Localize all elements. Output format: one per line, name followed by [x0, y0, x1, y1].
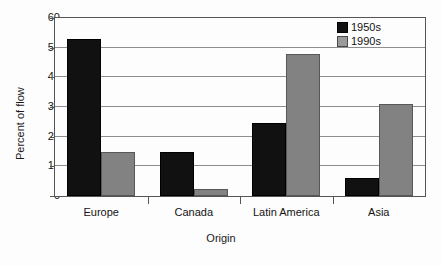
bar-chart: Percent of flow 0102030405060 EuropeCana… — [0, 0, 442, 266]
x-category-label: Latin America — [240, 206, 333, 218]
x-separator-tick — [333, 197, 334, 204]
legend-item-label: 1990s — [351, 35, 381, 47]
x-separator-tick — [240, 197, 241, 204]
x-separator-tick — [148, 197, 149, 204]
legend-item-label: 1950s — [351, 21, 381, 33]
bar — [101, 152, 135, 197]
x-category-label: Europe — [55, 206, 148, 218]
chart-legend: 1950s 1990s — [337, 20, 399, 48]
bar — [194, 189, 228, 196]
x-category-label: Canada — [148, 206, 241, 218]
x-category-label: Asia — [333, 206, 426, 218]
bar — [160, 152, 194, 197]
bar — [286, 54, 320, 196]
bar — [345, 178, 379, 196]
x-axis-title: Origin — [0, 232, 442, 244]
legend-swatch-icon — [337, 22, 348, 33]
bar — [67, 39, 101, 196]
bar — [252, 123, 286, 196]
legend-swatch-icon — [337, 36, 348, 47]
bar — [379, 104, 413, 196]
legend-item: 1950s — [337, 20, 399, 34]
legend-item: 1990s — [337, 34, 399, 48]
